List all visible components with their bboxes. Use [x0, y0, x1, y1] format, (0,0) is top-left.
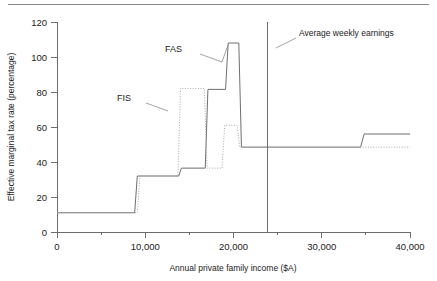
- fis-label-leader-line: [146, 103, 168, 111]
- x-tick-label: 20,000: [219, 241, 248, 252]
- y-tick-label: 40: [36, 157, 47, 168]
- y-axis-title: Effective marginal tax rate (percentage): [6, 52, 16, 201]
- x-tick-label: 30,000: [307, 241, 336, 252]
- average-weekly-earnings-label: Average weekly earnings: [299, 28, 394, 38]
- fas-label-leader-line: [200, 45, 228, 62]
- y-tick-label: 60: [36, 122, 47, 133]
- y-tick-label: 20: [36, 192, 47, 203]
- x-tick-label: 10,000: [131, 241, 160, 252]
- y-tick-label: 100: [31, 52, 47, 63]
- fas-label: FAS: [165, 44, 182, 54]
- tick-marks-group: [51, 22, 410, 238]
- series-line-fas: [57, 43, 410, 213]
- chart-figure: 020406080100120010,00020,00030,00040,000…: [0, 0, 437, 281]
- series-line-fis: [57, 89, 410, 213]
- x-tick-label: 0: [54, 241, 59, 252]
- annotations-group: FASFISAverage weekly earnings: [117, 28, 394, 111]
- x-axis-title: Annual private family income ($A): [169, 263, 296, 273]
- fis-label: FIS: [117, 93, 131, 103]
- effective-marginal-tax-rate-chart: 020406080100120010,00020,00030,00040,000…: [0, 0, 437, 281]
- x-tick-label: 40,000: [395, 241, 424, 252]
- average-weekly-earnings-label-leader-line: [276, 38, 296, 48]
- top-rule-divider: [8, 4, 429, 5]
- y-tick-label: 0: [42, 227, 47, 238]
- axes-group: [57, 22, 410, 232]
- data-series-group: [57, 43, 410, 213]
- y-tick-label: 80: [36, 87, 47, 98]
- y-tick-label: 120: [31, 17, 47, 28]
